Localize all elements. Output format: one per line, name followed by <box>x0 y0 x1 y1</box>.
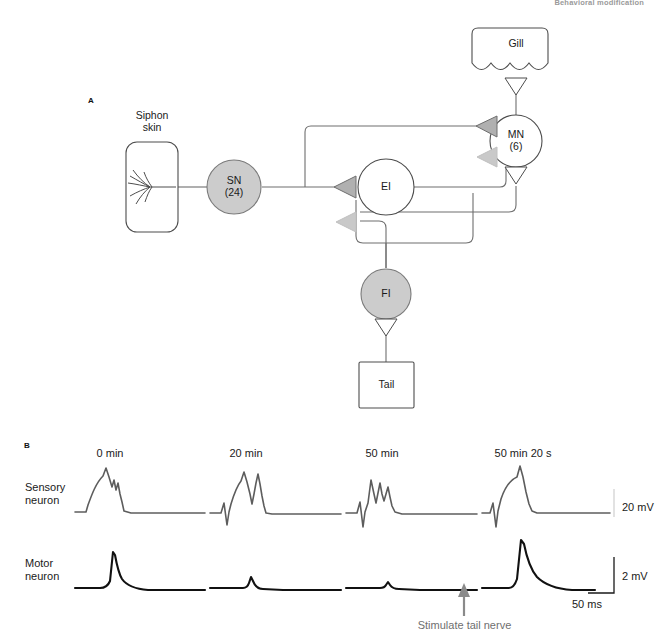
sensory-trace-group <box>75 466 610 527</box>
sensory-trace-0min <box>75 468 205 513</box>
motor-trace-20min <box>210 577 341 590</box>
motor-trace-group <box>75 540 595 590</box>
motor-trace-50min <box>346 582 477 590</box>
scale-bar-motor <box>588 557 614 593</box>
sensory-trace-20min <box>210 472 341 525</box>
motor-trace-0min <box>75 552 205 590</box>
figure-container: Behavioral modification A <box>0 0 662 638</box>
sensory-trace-50min20s <box>482 466 610 527</box>
sensory-trace-50min <box>346 480 477 527</box>
motor-trace-50min20s <box>482 540 595 590</box>
recording-traces <box>0 0 662 638</box>
stimulate-tail-nerve-label: Stimulate tail nerve <box>392 619 537 632</box>
scale-bar-motor-line <box>588 557 614 593</box>
scale-label-motor-voltage: 2 mV <box>622 570 648 583</box>
scale-label-sensory: 20 mV <box>622 501 654 514</box>
scale-label-motor-time: 50 ms <box>572 598 602 611</box>
stimulate-tail-nerve-arrow-icon <box>458 583 470 616</box>
